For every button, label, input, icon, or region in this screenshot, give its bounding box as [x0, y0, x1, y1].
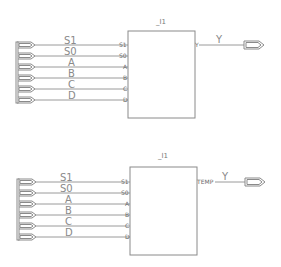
net-label-a: A: [68, 57, 75, 68]
pin-label-c: C: [125, 222, 129, 229]
input-port-b[interactable]: [18, 212, 36, 218]
pin-label-s0: S0: [121, 189, 129, 196]
net-label-y: Y: [215, 34, 223, 45]
port-bus-bracket: [17, 179, 19, 240]
schematic-2: S1 S0 A B C D _I1 S1 S0 A B C D TEMP Y: [17, 152, 265, 255]
instance-label: _I1: [157, 152, 168, 160]
schematic-canvas: S1 S0 A B C D _I1 S1 S0 A B C D Y Y: [0, 0, 281, 267]
net-label-c: C: [68, 79, 75, 90]
input-port-s1[interactable]: [17, 42, 35, 48]
pin-label-d: D: [123, 96, 128, 103]
input-port-d[interactable]: [18, 234, 36, 240]
pin-label-b: B: [125, 211, 129, 218]
input-port-s0[interactable]: [17, 53, 35, 59]
input-port-c[interactable]: [17, 86, 35, 92]
net-label-d: D: [68, 90, 76, 101]
net-label-y: Y: [221, 171, 229, 182]
pin-label-s1: S1: [119, 41, 127, 48]
output-port-y[interactable]: [245, 178, 265, 186]
input-port-a[interactable]: [17, 64, 35, 70]
pin-label-c: C: [123, 85, 127, 92]
input-port-b[interactable]: [17, 75, 35, 81]
input-port-d[interactable]: [17, 97, 35, 103]
input-port-s0[interactable]: [18, 190, 36, 196]
pin-label-b: B: [123, 74, 127, 81]
port-bus-bracket: [16, 42, 18, 103]
pin-label-d: D: [125, 233, 130, 240]
net-label-a: A: [65, 194, 72, 205]
input-port-s1[interactable]: [18, 179, 36, 185]
mux-component-box[interactable]: [130, 167, 197, 255]
net-label-c: C: [65, 216, 72, 227]
net-label-s0: S0: [64, 46, 77, 57]
net-label-b: B: [65, 205, 72, 216]
net-label-s1: S1: [60, 172, 73, 183]
input-port-c[interactable]: [18, 223, 36, 229]
mux-component-box[interactable]: [128, 31, 195, 118]
pin-label-temp: TEMP: [196, 178, 214, 185]
schematic-1: S1 S0 A B C D _I1 S1 S0 A B C D Y Y: [16, 18, 264, 118]
pin-label-s0: S0: [119, 52, 127, 59]
net-label-b: B: [68, 68, 75, 79]
pin-label-s1: S1: [121, 178, 129, 185]
net-label-s1: S1: [64, 35, 77, 46]
instance-label: _I1: [155, 18, 166, 26]
output-port-y[interactable]: [244, 41, 264, 49]
net-label-d: D: [65, 227, 73, 238]
input-port-a[interactable]: [18, 201, 36, 207]
net-label-s0: S0: [60, 183, 73, 194]
pin-label-y: Y: [194, 41, 199, 48]
